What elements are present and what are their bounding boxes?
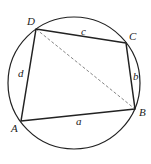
- vertex-label-a: A: [10, 122, 18, 134]
- vertex-label-b: B: [139, 106, 146, 118]
- quadrilateral-abcd: [21, 29, 135, 121]
- vertex-label-d: D: [26, 15, 35, 27]
- side-label-a: a: [76, 115, 82, 127]
- diagonal-db: [36, 29, 135, 109]
- side-label-b: b: [133, 70, 139, 82]
- side-label-c: c: [81, 25, 86, 37]
- side-label-d: d: [18, 67, 24, 79]
- cyclic-quadrilateral-diagram: A B C D a b c d: [0, 0, 151, 164]
- vertex-label-c: C: [129, 30, 137, 42]
